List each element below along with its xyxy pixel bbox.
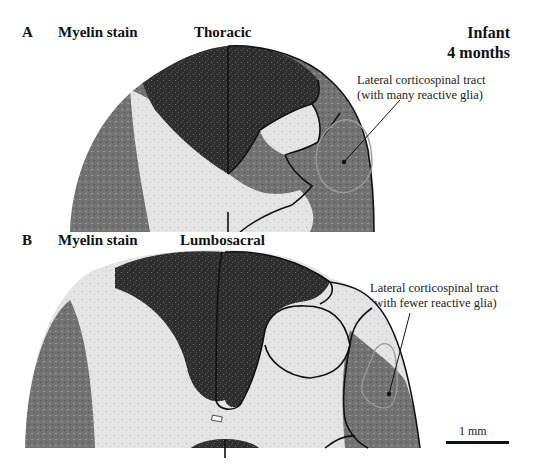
panel-b-letter: B [22,232,32,249]
panel-b-level-label: Lumbosacral [180,232,265,249]
panel-a-level-label: Thoracic [194,24,252,41]
scale-bar [446,441,509,444]
figure: A Myelin stain Thoracic Infant 4 months … [0,0,540,473]
scale-bar-label: 1 mm [459,424,487,439]
panel-a-spinal-cord-section [0,40,540,232]
panel-a-stain-label: Myelin stain [58,24,138,41]
panel-a-letter: A [22,24,33,41]
panel-b-stain-label: Myelin stain [58,232,138,249]
